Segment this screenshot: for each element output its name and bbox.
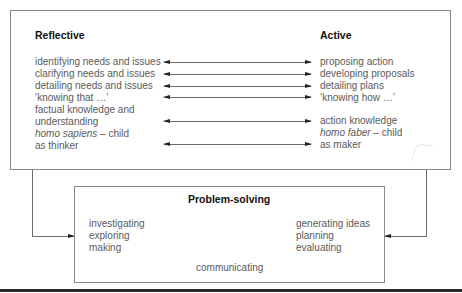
- page-curl-decoration: [411, 142, 433, 164]
- problem-solving-right-item: generating ideas: [296, 218, 370, 230]
- left-connector-line: [32, 170, 33, 237]
- reflective-item: as thinker: [35, 140, 78, 152]
- reflective-heading: Reflective: [35, 29, 85, 41]
- double-arrow-icon: [164, 97, 311, 98]
- problem-solving-left-item: making: [89, 242, 121, 254]
- problem-solving-right-item: planning: [296, 230, 334, 242]
- right-connector-line: [426, 170, 427, 237]
- active-item: action knowledge: [320, 115, 397, 127]
- bottom-rule: [0, 289, 462, 292]
- reflective-item: identifying needs and issues: [35, 56, 161, 68]
- problem-solving-center-item: communicating: [196, 262, 263, 274]
- double-arrow-icon: [164, 86, 311, 87]
- problem-solving-heading: Problem-solving: [188, 193, 270, 205]
- reflective-item: factual knowledge and: [35, 104, 135, 116]
- problem-solving-left-item: exploring: [89, 230, 130, 242]
- double-arrow-icon: [164, 62, 311, 63]
- active-item: ‘knowing how …’: [320, 92, 395, 104]
- homo-faber-term: homo faber: [320, 127, 371, 138]
- reflective-item: understanding: [35, 116, 98, 128]
- active-item: developing proposals: [320, 68, 415, 80]
- active-item: detailing plans: [320, 80, 384, 92]
- reflective-item: ‘knowing that …’: [35, 92, 108, 104]
- homo-sapiens-term: homo sapiens: [35, 128, 97, 139]
- reflective-item-homo-sapiens: homo sapiens – child: [35, 128, 129, 140]
- reflective-item: clarifying needs and issues: [35, 68, 155, 80]
- homo-sapiens-suffix: – child: [97, 128, 129, 139]
- left-connector-arrow-icon: [32, 236, 74, 237]
- active-item: as maker: [320, 139, 361, 151]
- active-item: proposing action: [320, 56, 393, 68]
- double-arrow-icon: [164, 74, 311, 75]
- active-heading: Active: [320, 29, 352, 41]
- double-arrow-icon: [164, 144, 311, 145]
- homo-faber-suffix: – child: [371, 127, 403, 138]
- active-item-homo-faber: homo faber – child: [320, 127, 402, 139]
- problem-solving-left-item: investigating: [89, 218, 145, 230]
- reflective-item: detailing needs and issues: [35, 80, 153, 92]
- double-arrow-icon: [164, 121, 311, 122]
- right-connector-arrow-icon: [385, 236, 427, 237]
- problem-solving-right-item: evaluating: [296, 242, 342, 254]
